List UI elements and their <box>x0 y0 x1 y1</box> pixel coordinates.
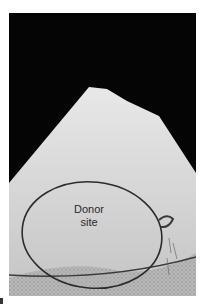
donor-label-line2: site <box>59 216 119 228</box>
donor-label-line1: Donor <box>59 203 119 215</box>
panel-marker <box>0 298 3 304</box>
abdomen-illustration <box>9 13 196 296</box>
clinical-photo: Donor site <box>9 13 196 296</box>
